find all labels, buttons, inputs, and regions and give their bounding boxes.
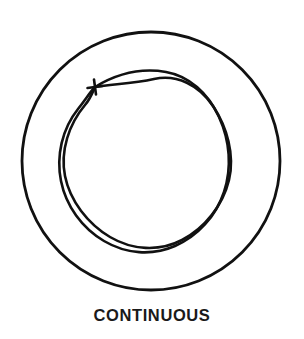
continuous-drawing-figure <box>0 0 304 339</box>
figure-panel: CONTINUOUS <box>0 0 304 339</box>
figure-caption: CONTINUOUS <box>0 305 304 325</box>
canvas-background <box>0 0 304 339</box>
